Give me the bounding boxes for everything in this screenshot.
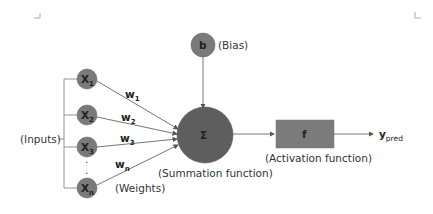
svg-text:Σ: Σ bbox=[200, 129, 207, 141]
activation-box: f bbox=[276, 120, 334, 148]
weights-label: (Weights) bbox=[115, 182, 165, 194]
output-label: ypred bbox=[379, 128, 403, 143]
corner-mark-right bbox=[415, 12, 421, 18]
summation-label: (Summation function) bbox=[158, 167, 273, 179]
ellipsis-dot-2: . bbox=[85, 164, 88, 176]
input-node-x1: X1 bbox=[77, 69, 97, 89]
weight-label-wn: wn bbox=[115, 158, 130, 173]
bias-label: (Bias) bbox=[218, 39, 248, 51]
corner-mark-left bbox=[34, 13, 40, 18]
inputs-label: (Inputs) bbox=[20, 133, 61, 145]
bias-node: b bbox=[191, 33, 215, 57]
weight-label-w1: w1 bbox=[125, 88, 140, 103]
input-node-x2: X2 bbox=[77, 105, 97, 125]
svg-text:b: b bbox=[199, 39, 207, 51]
svg-text:f: f bbox=[302, 128, 307, 140]
summation-node: Σ bbox=[177, 107, 233, 163]
perceptron-diagram: X1 X2 X3 . . Xn (Inputs) w1 w2 w3 wn (We… bbox=[0, 0, 433, 214]
activation-label: (Activation function) bbox=[265, 152, 372, 164]
input-node-xn: Xn bbox=[77, 178, 97, 198]
